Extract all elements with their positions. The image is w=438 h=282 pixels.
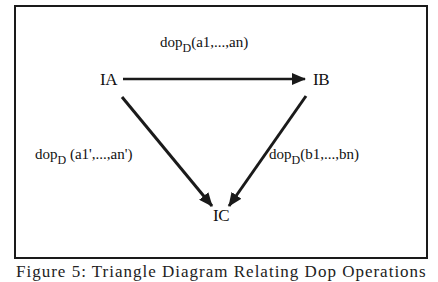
edge-subscript: D [183,41,192,55]
arrow-ia-ic [122,97,212,206]
node-ia: IA [100,71,117,88]
edge-op: dop [269,146,292,162]
figure-caption: Figure 5: Triangle Diagram Relating Dop … [16,262,427,282]
edge-op: dop [160,34,183,50]
edge-args: (a1',...,an') [66,146,132,162]
edge-subscript: D [58,153,67,167]
edge-label-ib-ic: dopD(b1,...,bn) [269,147,359,162]
edge-label-ia-ib: dopD(a1,...,an) [160,35,248,50]
node-ib: IB [313,71,329,88]
edge-subscript: D [292,153,301,167]
edge-op: dop [35,146,58,162]
edge-args: (a1,...,an) [191,34,248,50]
edge-label-ia-ic: dopD (a1',...,an') [35,147,132,162]
edge-args: (b1,...,bn) [300,146,359,162]
node-ic: IC [213,207,229,224]
